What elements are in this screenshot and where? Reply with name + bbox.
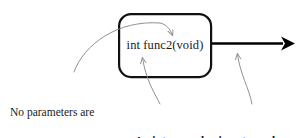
return-callout-arrow-right: [238, 54, 253, 104]
no-parameters-annotation: No parameters are taken by the function: [10, 81, 107, 138]
return-value-annotation: An integer value is returned by the func…: [118, 110, 292, 138]
diagram-canvas: int func2(void) No parameters are taken …: [0, 0, 299, 138]
no-parameters-annotation-line-1: No parameters are: [10, 106, 107, 119]
return-value-arrow: [212, 37, 295, 51]
function-signature-label: int func2(void): [118, 39, 212, 51]
return-value-annotation-line-1: An integer value is returned: [118, 135, 292, 138]
